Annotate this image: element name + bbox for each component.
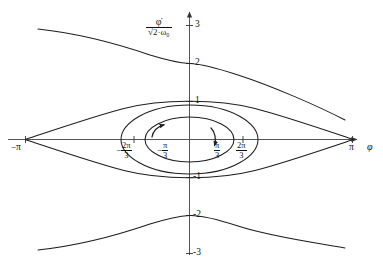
frac-num-2pi-right: 2π bbox=[236, 141, 247, 150]
pi-glyph-left: π bbox=[16, 142, 21, 152]
y-axis bbox=[186, 12, 193, 255]
frac-den-3-right: 3 bbox=[214, 150, 220, 160]
x-axis bbox=[8, 136, 357, 143]
y-tick-label-minus-3: -3 bbox=[193, 248, 201, 258]
y-tick-label-minus-1: -1 bbox=[193, 172, 201, 182]
frac-den-3-left: 3 bbox=[162, 150, 168, 160]
frac-num-2pi: 2π bbox=[121, 141, 132, 150]
x-axis-label: φ bbox=[367, 142, 373, 152]
y-axis-label: φ̇ √2·ω₀ bbox=[146, 16, 172, 39]
y-tick-label-minus-2: -2 bbox=[193, 210, 201, 220]
y-axis-label-denominator: √2·ω₀ bbox=[146, 27, 172, 38]
x-tick-label-minus-pi: −π bbox=[11, 143, 21, 153]
phase-portrait-canvas bbox=[0, 0, 383, 261]
y-tick-label-1: 1 bbox=[195, 96, 200, 106]
frac-den-3: 3 bbox=[121, 150, 132, 160]
y-tick-label-2: 2 bbox=[195, 58, 200, 68]
phase-portrait-figure: 3 2 1 -1 -2 -3 φ̇ √2·ω₀ −π − 2π 3 − π 3 … bbox=[0, 0, 383, 261]
y-axis-label-numerator: φ̇ bbox=[146, 16, 172, 27]
frac-num-pi-left: π bbox=[162, 141, 168, 150]
x-tick-label-pi-over-3: π 3 bbox=[214, 141, 220, 160]
frac-num-pi-right: π bbox=[214, 141, 220, 150]
rotation-lower-curve bbox=[38, 215, 345, 250]
x-tick-label-2pi-over-3: 2π 3 bbox=[236, 141, 247, 160]
y-tick-label-3: 3 bbox=[195, 20, 200, 30]
x-tick-label-minus-2pi-3: − 2π 3 bbox=[116, 141, 132, 160]
x-tick-label-minus-pi-over-3: − π 3 bbox=[157, 141, 168, 160]
x-tick-label-pi: π bbox=[349, 143, 354, 153]
rotation-upper-curve bbox=[38, 29, 345, 120]
frac-den-3-right2: 3 bbox=[236, 150, 247, 160]
